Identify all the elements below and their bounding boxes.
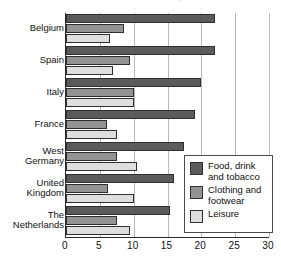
chart-title: % of household budget xyxy=(62,0,232,1)
legend-label-line: Leisure xyxy=(208,209,239,220)
legend-label: Leisure xyxy=(208,209,239,220)
category-label-line: Belgium xyxy=(0,23,64,34)
bar xyxy=(66,130,117,139)
category-label: France xyxy=(0,119,64,130)
bar xyxy=(66,216,117,225)
category-label: Italy xyxy=(0,87,64,98)
legend-swatch xyxy=(190,210,203,223)
x-axis-tick-label: 25 xyxy=(228,240,240,251)
bar xyxy=(66,184,108,193)
category-label-line: Kingdom xyxy=(0,188,64,199)
bar xyxy=(66,120,107,129)
legend-label: Clothing andfootwear xyxy=(208,185,261,206)
category-label: UnitedKingdom xyxy=(0,178,64,199)
x-axis-tick-label: 10 xyxy=(127,240,139,251)
legend-item: Food, drinkand tobacco xyxy=(190,161,268,182)
category-label-line: Netherlands xyxy=(0,220,64,231)
bar xyxy=(66,162,137,171)
legend-item: Leisure xyxy=(190,209,268,223)
bar xyxy=(66,98,134,107)
legend-item: Clothing andfootwear xyxy=(190,185,268,206)
bar xyxy=(66,56,130,65)
legend-label: Food, drinkand tobacco xyxy=(208,161,260,182)
bar xyxy=(66,194,134,203)
category-label: Spain xyxy=(0,55,64,66)
bar-group xyxy=(66,14,269,46)
bar-group xyxy=(66,78,269,110)
bar xyxy=(66,78,201,87)
category-label: WestGermany xyxy=(0,146,64,167)
category-label: Belgium xyxy=(0,23,64,34)
x-axis-tick-label: 0 xyxy=(62,240,68,251)
x-axis-tick-label: 30 xyxy=(262,240,274,251)
legend-label-line: Food, drink xyxy=(208,161,260,172)
bar xyxy=(66,174,174,183)
bar xyxy=(66,46,215,55)
bar xyxy=(66,142,184,151)
bar xyxy=(66,88,134,97)
legend-swatch xyxy=(190,162,203,175)
legend-label-line: and tobacco xyxy=(208,172,260,183)
x-axis-tick-label: 15 xyxy=(161,240,173,251)
legend-label-line: footwear xyxy=(208,196,261,207)
bar xyxy=(66,34,110,43)
bar xyxy=(66,110,195,119)
bar xyxy=(66,14,215,23)
category-label-line: France xyxy=(0,119,64,130)
bar xyxy=(66,24,124,33)
bar-group xyxy=(66,46,269,78)
category-label: TheNetherlands xyxy=(0,210,64,231)
category-label-line: Germany xyxy=(0,156,64,167)
bar xyxy=(66,66,113,75)
legend-swatch xyxy=(190,186,203,199)
bar xyxy=(66,206,170,215)
category-label-line: Italy xyxy=(0,87,64,98)
bar-chart: % of household budget Food, drinkand tob… xyxy=(0,0,281,264)
x-axis-tick-label: 5 xyxy=(96,240,102,251)
category-label-line: Spain xyxy=(0,55,64,66)
legend-label-line: Clothing and xyxy=(208,185,261,196)
bar xyxy=(66,226,130,235)
chart-legend: Food, drinkand tobaccoClothing andfootwe… xyxy=(184,155,273,233)
bar xyxy=(66,152,117,161)
x-axis-tick-label: 20 xyxy=(195,240,207,251)
bar-group xyxy=(66,110,269,142)
